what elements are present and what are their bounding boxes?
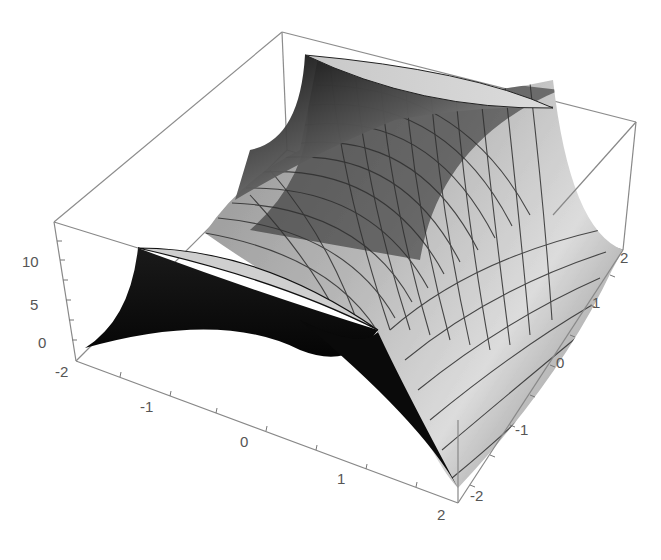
x-axis-tick-label: -1 [140, 398, 153, 415]
x-axis-tick-label: 0 [240, 433, 248, 450]
y-axis-tick-label: -1 [515, 421, 528, 438]
y-axis-tick-label: -2 [470, 487, 483, 504]
x-axis-tick-label: 1 [337, 470, 345, 487]
y-axis-tick-label: 1 [592, 294, 600, 311]
y-axis-tick-label: 2 [620, 249, 628, 266]
surface-plot [0, 0, 661, 560]
x-axis-tick-label: -2 [55, 363, 68, 380]
z-axis-tick-label: 0 [38, 334, 46, 351]
z-axis-tick-label: 10 [22, 253, 39, 270]
z-axis-tick-label: 5 [30, 296, 38, 313]
x-axis-tick-label: 2 [437, 506, 445, 523]
y-axis-tick-label: 0 [556, 354, 564, 371]
